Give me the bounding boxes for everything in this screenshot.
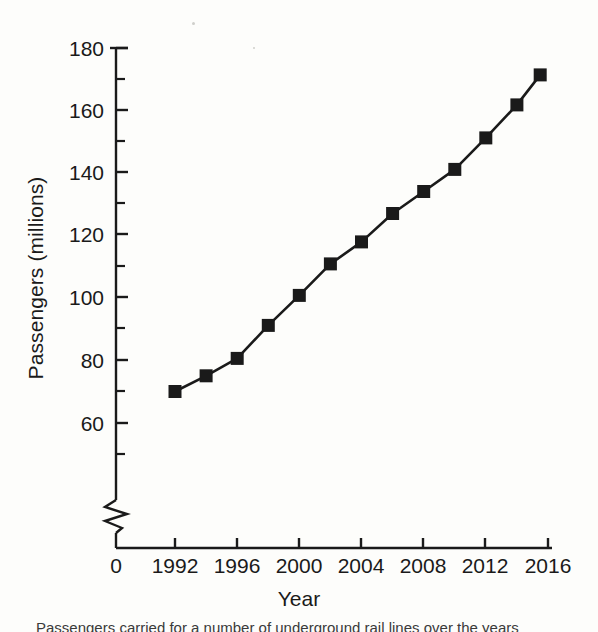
y-origin-label-0: 0 [110, 554, 122, 577]
data-point-marker [534, 68, 547, 81]
y-axis-title: Passengers (millions) [24, 158, 48, 398]
y-tick-label-120: 120 [69, 223, 104, 246]
scan-speck [192, 22, 195, 25]
y-tick-label-160: 160 [69, 99, 104, 122]
y-tick-label-80: 80 [81, 349, 104, 372]
y-tick-label-140: 140 [69, 161, 104, 184]
x-tick-label-2008: 2008 [400, 554, 447, 577]
y-axis-major-ticks [116, 48, 128, 423]
data-point-marker [448, 163, 461, 176]
line-chart: 180 160 140 120 100 80 60 0 1992 1996 20… [0, 0, 598, 632]
y-tick-label-100: 100 [69, 286, 104, 309]
y-axis-minor-ticks [116, 79, 125, 454]
x-tick-label-1992: 1992 [152, 554, 199, 577]
data-point-marker [324, 257, 337, 270]
data-point-marker [355, 235, 368, 248]
x-tick-label-2000: 2000 [276, 554, 323, 577]
data-point-marker [510, 98, 523, 111]
data-point-marker [293, 289, 306, 302]
figure-caption: Passengers carried for a number of under… [36, 619, 566, 632]
y-axis-break-symbol [105, 500, 127, 533]
x-axis-ticks [175, 538, 548, 548]
data-point-marker [169, 385, 182, 398]
data-point-marker [231, 352, 244, 365]
data-point-marker [200, 369, 213, 382]
y-tick-label-180: 180 [69, 37, 104, 60]
data-series-markers [169, 68, 547, 398]
x-tick-label-2016: 2016 [525, 554, 572, 577]
x-tick-label-2004: 2004 [338, 554, 385, 577]
data-point-marker [417, 185, 430, 198]
x-axis-title: Year [0, 587, 598, 611]
data-series-line [175, 75, 540, 392]
data-point-marker [386, 207, 399, 220]
x-tick-label-2012: 2012 [462, 554, 509, 577]
data-point-marker [262, 319, 275, 332]
data-point-marker [479, 131, 492, 144]
y-tick-label-60: 60 [81, 412, 104, 435]
x-tick-label-1996: 1996 [214, 554, 261, 577]
figure-container: 180 160 140 120 100 80 60 0 1992 1996 20… [0, 0, 598, 632]
scan-speck [253, 47, 255, 49]
